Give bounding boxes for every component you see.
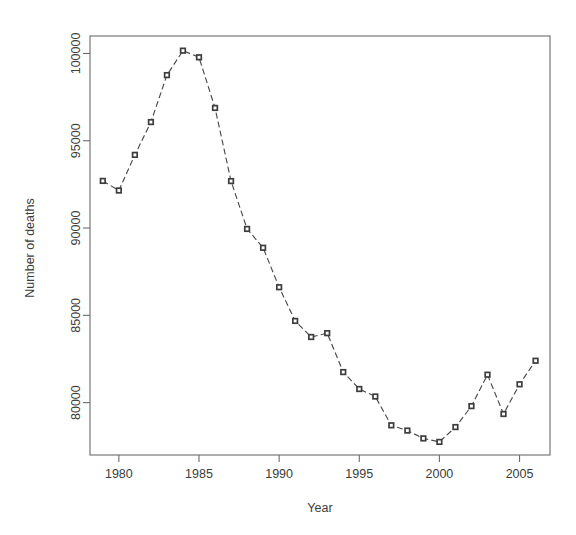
data-point-marker (485, 372, 490, 377)
data-point-marker (229, 179, 234, 184)
data-point-marker (213, 106, 218, 111)
y-tick-label: 80000 (69, 385, 83, 420)
data-point-marker (469, 404, 474, 409)
data-point-marker (309, 335, 314, 340)
data-point-marker (325, 331, 330, 336)
data-point-marker (245, 227, 250, 232)
x-tick-label: 1980 (105, 467, 133, 481)
x-tick-label: 1995 (345, 467, 373, 481)
data-point-marker (437, 440, 442, 445)
x-tick-label: 1990 (265, 467, 293, 481)
data-point-marker (389, 423, 394, 428)
y-axis-ticks (83, 53, 90, 402)
data-point-marker (517, 382, 522, 387)
y-axis-tick-labels: 80000850009000095000100000 (69, 33, 83, 420)
x-axis-ticks (119, 455, 520, 462)
data-point-marker (133, 153, 138, 158)
x-axis-title: Year (307, 501, 332, 515)
data-series-line (103, 51, 536, 442)
data-point-marker (341, 370, 346, 375)
data-point-marker (373, 394, 378, 399)
data-point-marker (357, 387, 362, 392)
chart-container: 80000850009000095000100000 1980198519901… (0, 0, 576, 535)
data-point-marker (405, 428, 410, 433)
data-point-marker (421, 436, 426, 441)
data-point-marker (453, 425, 458, 430)
data-point-marker (181, 48, 186, 53)
data-series-markers (101, 48, 538, 444)
data-point-marker (117, 188, 122, 193)
data-point-marker (165, 73, 170, 78)
data-point-marker (293, 319, 298, 324)
x-tick-label: 2005 (506, 467, 534, 481)
y-axis-title: Number of deaths (23, 198, 37, 297)
data-point-marker (533, 358, 538, 363)
y-tick-label: 100000 (69, 33, 83, 75)
y-tick-label: 95000 (69, 123, 83, 158)
x-tick-label: 2000 (426, 467, 454, 481)
data-point-marker (101, 179, 106, 184)
data-point-marker (149, 120, 154, 125)
data-point-marker (277, 285, 282, 290)
x-axis-tick-labels: 198019851990199520002005 (105, 467, 534, 481)
line-chart: 80000850009000095000100000 1980198519901… (0, 0, 576, 535)
data-point-marker (261, 245, 266, 250)
y-tick-label: 90000 (69, 211, 83, 246)
y-tick-label: 85000 (69, 298, 83, 333)
data-point-marker (197, 55, 202, 60)
data-point-marker (501, 412, 506, 417)
x-tick-label: 1985 (185, 467, 213, 481)
plot-frame (90, 36, 550, 455)
